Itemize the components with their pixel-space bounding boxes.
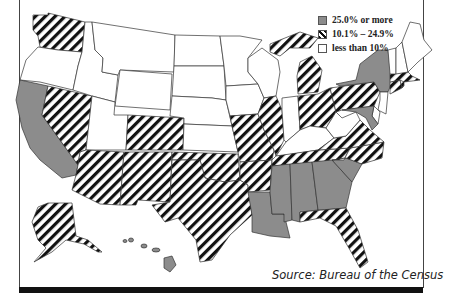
legend-label: 10.1% – 24.9% — [332, 29, 394, 39]
state-washington — [33, 13, 85, 52]
state-arizona — [72, 150, 124, 205]
state-south-dakota — [172, 66, 226, 100]
swatch-gray-icon — [318, 16, 327, 25]
state-maine — [402, 22, 432, 72]
swatch-white-icon — [318, 44, 327, 53]
state-mississippi — [270, 164, 292, 222]
state-montana — [92, 22, 175, 75]
legend: 25.0% or more 10.1% – 24.9% less than 10… — [318, 13, 394, 55]
legend-label: less than 10% — [332, 43, 388, 53]
state-alaska — [32, 203, 102, 262]
legend-item-high: 25.0% or more — [318, 13, 394, 27]
bottom-bar — [19, 287, 423, 293]
state-new-mexico — [120, 152, 172, 205]
state-wyoming — [115, 70, 172, 110]
state-iowa — [226, 84, 264, 116]
state-michigan-lower — [297, 56, 322, 94]
state-colorado — [126, 115, 184, 150]
state-north-dakota — [174, 35, 224, 66]
legend-item-low: less than 10% — [318, 41, 394, 55]
state-florida — [300, 208, 368, 268]
state-kansas — [183, 124, 238, 152]
swatch-hatch-icon — [318, 30, 327, 39]
state-new-jersey — [378, 92, 388, 114]
legend-item-mid: 10.1% – 24.9% — [318, 27, 394, 41]
state-hawaii — [123, 238, 176, 272]
legend-label: 25.0% or more — [332, 15, 393, 25]
state-michigan — [270, 32, 318, 56]
source-caption: Source: Bureau of the Census — [272, 268, 443, 282]
